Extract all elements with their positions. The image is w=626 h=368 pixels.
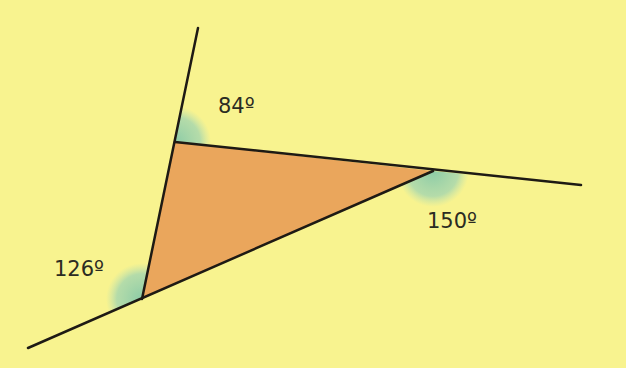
diagram-canvas [0,0,626,368]
angle-label-top: 84º [218,96,255,117]
angle-label-right: 150º [427,211,477,232]
triangle-exterior-angles-diagram: 84º 150º 126º [0,0,626,368]
angle-label-bottom-left: 126º [54,259,104,280]
